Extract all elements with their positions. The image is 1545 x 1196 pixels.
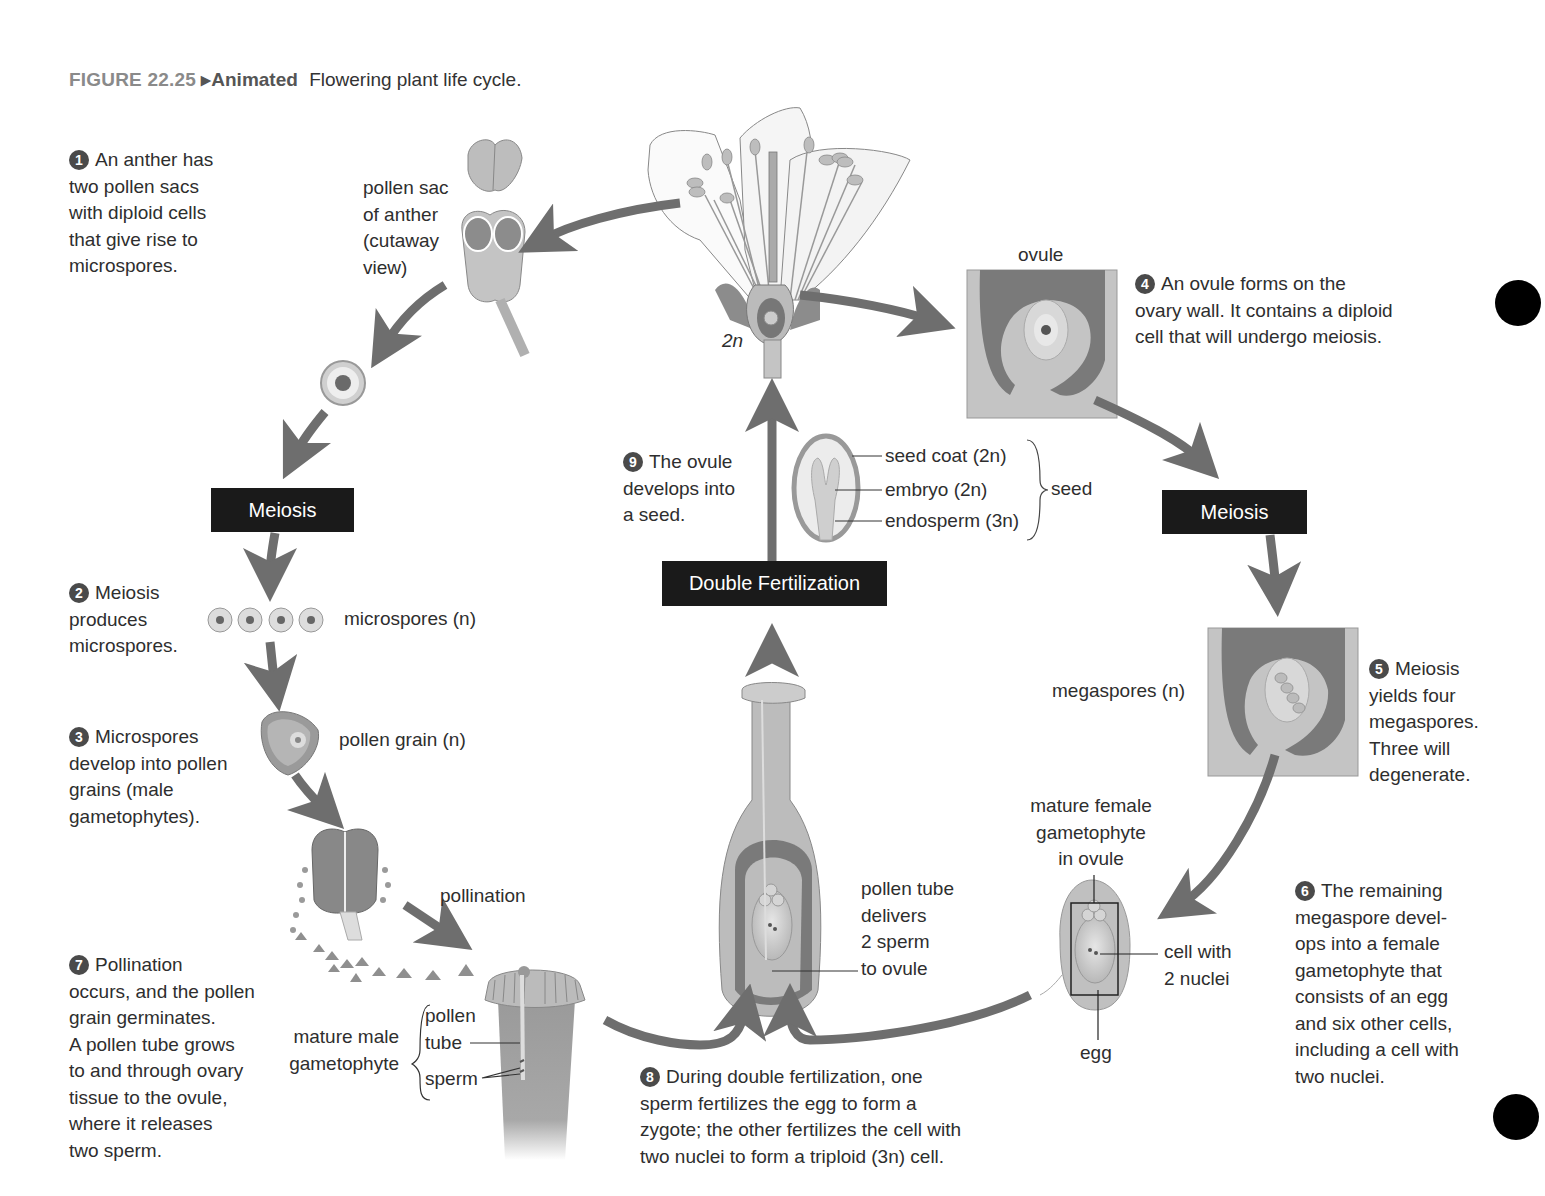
- pollen-grain-icon: [261, 712, 318, 775]
- pistil-icon: [719, 683, 821, 1017]
- step-9-text: 9The ovule develops intoa seed.: [623, 449, 735, 529]
- step-number-badge: 5: [1369, 659, 1389, 679]
- step-8-text: 8During double fertilization, one sperm …: [640, 1064, 961, 1170]
- pollination-label: pollination: [440, 883, 526, 910]
- step-number-badge: 4: [1135, 274, 1155, 294]
- female-gametophyte-icon: [1040, 875, 1158, 1040]
- meiosis-box-right: Meiosis: [1162, 490, 1307, 534]
- pollen-sac-label: pollen sacof anther (cutawayview): [363, 175, 449, 281]
- microspores-label: microspores (n): [344, 606, 476, 633]
- pollen-tube-label: pollentube: [425, 1003, 476, 1056]
- step-number-badge: 2: [69, 583, 89, 603]
- step-4-text: 4An ovule forms on the ovary wall. It co…: [1135, 271, 1393, 351]
- figure-number: FIGURE 22.25: [69, 69, 196, 90]
- step-number-badge: 9: [623, 452, 643, 472]
- step-3-text: 3Microspores develop into pollengrains (…: [69, 724, 227, 830]
- pollen-tube-delivers-label: pollen tubedelivers 2 spermto ovule: [861, 876, 954, 982]
- cell-with-2-nuclei-label: cell with2 nuclei: [1164, 939, 1232, 992]
- margin-dot-top: [1495, 280, 1541, 326]
- step-7-text: 7Pollination occurs, and the pollengrain…: [69, 952, 255, 1164]
- step-number-badge: 8: [640, 1067, 660, 1087]
- pollen-grain-label: pollen grain (n): [339, 727, 466, 754]
- step-number-badge: 6: [1295, 881, 1315, 901]
- sperm-label: sperm: [425, 1066, 478, 1093]
- step-2-text: 2Meiosis producesmicrospores.: [69, 580, 178, 660]
- double-fertilization-box: Double Fertilization: [662, 561, 887, 606]
- megaspores-ovule-icon: [1208, 628, 1358, 776]
- embryo-label: embryo (2n): [885, 477, 987, 504]
- meiosis-box-left: Meiosis: [211, 488, 354, 532]
- step-number-badge: 1: [69, 150, 89, 170]
- egg-label: egg: [1080, 1040, 1112, 1067]
- figure-title: Flowering plant life cycle.: [309, 69, 521, 90]
- seed-coat-label: seed coat (2n): [885, 443, 1006, 470]
- step-5-text: 5Meiosis yields fourmegaspores. Three wi…: [1369, 656, 1479, 789]
- flower-icon: [648, 108, 910, 378]
- step-1-text: 1An anther has two pollen sacswith diplo…: [69, 147, 213, 280]
- mature-female-gametophyte-label: mature femalegametophyte in ovule: [1026, 793, 1156, 873]
- animated-link[interactable]: ▸Animated: [201, 69, 298, 90]
- figure-caption: FIGURE 22.25 ▸Animated Flowering plant l…: [69, 68, 521, 91]
- ovule-icon: [967, 270, 1117, 418]
- seed-label: seed: [1051, 476, 1092, 503]
- mature-male-gametophyte-label: mature malegametophyte: [282, 1024, 399, 1077]
- step-number-badge: 3: [69, 727, 89, 747]
- microspores-icon: [208, 608, 323, 632]
- ovule-label: ovule: [1018, 242, 1063, 269]
- flower-ploidy-label: 2n: [722, 328, 743, 355]
- step-number-badge: 7: [69, 955, 89, 975]
- endosperm-label: endosperm (3n): [885, 508, 1019, 535]
- megaspores-label: megaspores (n): [1052, 678, 1185, 705]
- diploid-cell-icon: [321, 361, 365, 405]
- margin-dot-bottom: [1493, 1094, 1539, 1140]
- step-6-text: 6The remaining megaspore devel-ops into …: [1295, 878, 1459, 1090]
- anther-icon: [462, 140, 525, 355]
- stigma-style-icon: [485, 966, 585, 1160]
